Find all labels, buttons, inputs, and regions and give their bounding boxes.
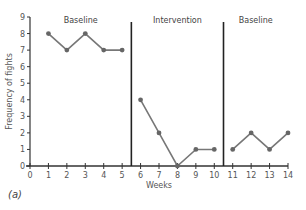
y-tick-label: 0 (20, 162, 25, 171)
y-tick-label: 3 (20, 112, 25, 121)
phase-label: Baseline (239, 16, 273, 25)
x-tick-label: 12 (246, 171, 256, 180)
data-point (157, 130, 162, 135)
x-tick-label: 2 (64, 171, 69, 180)
x-tick-label: 6 (138, 171, 143, 180)
x-tick-label: 8 (175, 171, 180, 180)
data-point (101, 48, 106, 53)
data-point (120, 48, 125, 53)
y-tick-label: 2 (20, 129, 25, 138)
phase-dividers (131, 22, 223, 166)
data-point (193, 147, 198, 152)
single-case-chart: 012345678901234567891011121314 BaselineI… (0, 0, 306, 210)
x-axis-title: Weeks (146, 181, 172, 190)
data-point (138, 97, 143, 102)
data-point (267, 147, 272, 152)
data-point (64, 48, 69, 53)
x-tick-label: 7 (156, 171, 161, 180)
data-point (249, 130, 254, 135)
phase-label: Baseline (64, 16, 98, 25)
x-tick-label: 1 (46, 171, 51, 180)
y-tick-label: 9 (20, 13, 25, 22)
x-tick-label: 9 (193, 171, 198, 180)
data-series (46, 31, 290, 168)
x-tick-label: 3 (83, 171, 88, 180)
y-axis-title: Frequency of fights (5, 53, 14, 130)
axes: 012345678901234567891011121314 (20, 13, 293, 180)
data-point (212, 147, 217, 152)
y-tick-label: 7 (20, 46, 25, 55)
data-point (286, 130, 291, 135)
data-point (230, 147, 235, 152)
panel-label: (a) (8, 189, 22, 200)
y-tick-label: 1 (20, 145, 25, 154)
x-tick-label: 4 (101, 171, 106, 180)
series-baseline-return- (230, 130, 290, 151)
data-point (46, 31, 51, 36)
phase-label: Intervention (153, 16, 202, 25)
series-intervention (138, 97, 217, 168)
data-point (175, 164, 180, 169)
y-tick-label: 5 (20, 79, 25, 88)
x-tick-label: 14 (283, 171, 293, 180)
y-tick-label: 4 (20, 96, 25, 105)
y-tick-label: 6 (20, 63, 25, 72)
x-tick-label: 11 (228, 171, 238, 180)
series-baseline (46, 31, 125, 52)
data-point (83, 31, 88, 36)
x-tick-label: 10 (209, 171, 219, 180)
x-tick-label: 5 (120, 171, 125, 180)
y-tick-label: 8 (20, 30, 25, 39)
x-tick-label: 13 (264, 171, 274, 180)
x-tick-label: 0 (27, 171, 32, 180)
